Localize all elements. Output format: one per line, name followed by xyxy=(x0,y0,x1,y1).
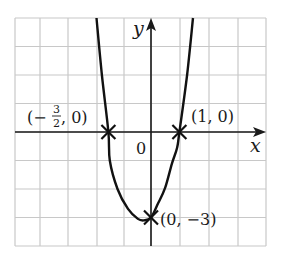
curve xyxy=(97,18,194,221)
point-label-close: , 0) xyxy=(61,108,88,127)
graph: y x 0 (− 3 2 , 0) (1, 0) (0, −3) xyxy=(0,0,286,262)
fraction-numerator: 3 xyxy=(53,103,60,116)
point-label-one-zero: (1, 0) xyxy=(191,107,234,126)
point-label-zero-neg-three: (0, −3) xyxy=(160,210,216,229)
x-axis-label: x xyxy=(250,134,261,156)
y-axis-label: y xyxy=(132,17,144,39)
origin-label: 0 xyxy=(136,139,146,158)
fraction-denominator: 2 xyxy=(53,117,60,130)
point-label-open: (− xyxy=(27,108,47,127)
axes xyxy=(15,18,266,246)
point-label-neg-three-halves: (− 3 2 , 0) xyxy=(27,103,88,130)
